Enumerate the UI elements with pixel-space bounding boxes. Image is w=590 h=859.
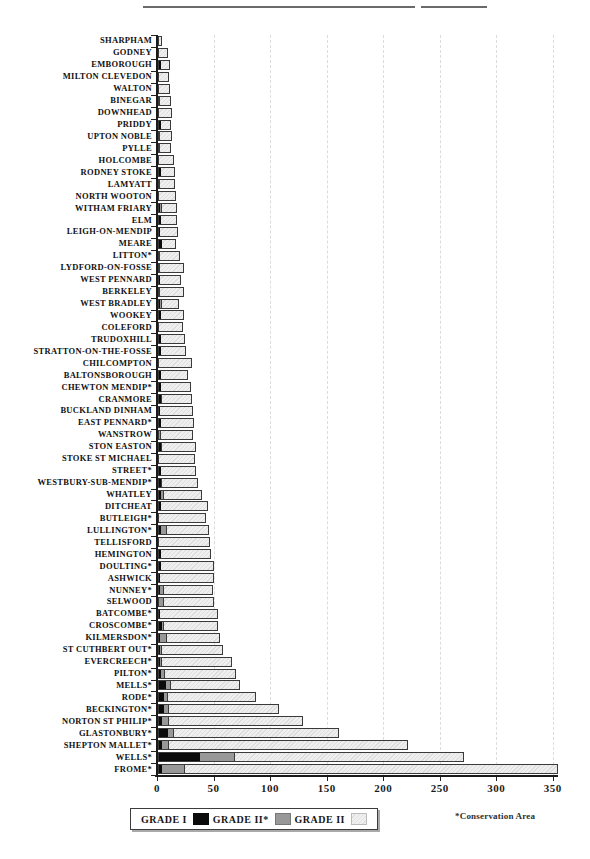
gridline: [496, 35, 497, 775]
scanned-chart-page: 050100150200250300350SHARPHAMGODNEYEMBOR…: [0, 0, 590, 859]
bar-row: [158, 597, 214, 607]
grade-2-segment: [159, 359, 191, 367]
bar-row: [158, 48, 168, 58]
x-axis-tick: [553, 777, 554, 781]
category-label: STRATTON-ON-THE-FOSSE: [2, 347, 152, 356]
grade-2-segment: [162, 395, 190, 403]
category-label: ELM: [2, 216, 152, 225]
category-label: WELLS*: [2, 753, 152, 762]
bar-row: [158, 191, 176, 201]
x-axis-tick: [327, 777, 328, 781]
grade-2-segment: [160, 407, 192, 415]
category-label: STREET*: [2, 466, 152, 475]
bar-row: [158, 120, 171, 130]
bar-row: [158, 764, 558, 774]
grade-2-segment: [161, 168, 173, 176]
grade-2-segment: [169, 741, 407, 749]
category-label: SELWOOD: [2, 597, 152, 606]
bar-row: [158, 501, 208, 511]
category-label: UPTON NOBLE: [2, 132, 152, 141]
bar-row: [158, 358, 192, 368]
bar-row: [158, 334, 185, 344]
x-tick-label: 100: [250, 782, 290, 794]
grade-2-star-segment: [200, 753, 235, 761]
x-axis-tick: [440, 777, 441, 781]
category-label: EAST PENNARD*: [2, 418, 152, 427]
category-label: EMBOROUGH: [2, 60, 152, 69]
bar-row: [158, 36, 162, 46]
bar-row: [158, 370, 188, 380]
grade-2-segment: [161, 383, 189, 391]
grade-2-segment: [159, 323, 182, 331]
page-header-rule: [421, 6, 487, 8]
grade-2-segment: [160, 132, 171, 140]
bar-row: [158, 645, 223, 655]
grade-2-segment: [160, 288, 183, 296]
category-label: DITCHEAT: [2, 502, 152, 511]
category-label: WALTON: [2, 84, 152, 93]
bar-row: [158, 454, 195, 464]
category-label: COLEFORD: [2, 323, 152, 332]
category-label: MEARE: [2, 239, 152, 248]
grade-1-segment: [159, 681, 166, 689]
bar-row: [158, 108, 172, 118]
grade-2-segment: [161, 371, 187, 379]
bar-row: [158, 490, 202, 500]
x-tick-label: 200: [363, 782, 403, 794]
category-label: PRIDDY: [2, 120, 152, 129]
x-tick-label: 150: [307, 782, 347, 794]
grade-2-segment: [171, 681, 239, 689]
category-label: MELLS*: [2, 681, 152, 690]
bar-row: [158, 549, 211, 559]
category-label: HEMINGTON: [2, 550, 152, 559]
grade-2-segment: [160, 574, 213, 582]
category-label: CRANMORE: [2, 395, 152, 404]
category-label: WEST BRADLEY: [2, 299, 152, 308]
bar-row: [158, 561, 214, 571]
bar-row: [158, 215, 177, 225]
conservation-area-footnote: *Conservation Area: [455, 811, 575, 821]
category-label: GLASTONBURY*: [2, 729, 152, 738]
bar-row: [158, 251, 180, 261]
bar-row: [158, 179, 175, 189]
grade-2-segment: [159, 73, 168, 81]
category-label: NORTON ST PHILIP*: [2, 717, 152, 726]
grade-2-segment: [185, 765, 557, 773]
grade-2-segment: [161, 216, 176, 224]
category-label: CHEWTON MENDIP*: [2, 383, 152, 392]
bar-row: [158, 418, 194, 428]
x-axis-tick: [214, 777, 215, 781]
legend-label: GRADE I: [141, 814, 187, 825]
category-label: WEST PENNARD: [2, 275, 152, 284]
category-label: LAMYATT: [2, 180, 152, 189]
grade-2-segment: [160, 610, 217, 618]
bar-row: [158, 227, 178, 237]
x-axis-tick: [496, 777, 497, 781]
grade-2-star-segment: [162, 717, 169, 725]
grade-2-star-swatch: [275, 813, 291, 825]
category-label: NUNNEY*: [2, 586, 152, 595]
legend-item-grade-2-star: GRADE II*: [213, 813, 291, 825]
bar-row: [158, 633, 220, 643]
bar-row: [158, 60, 170, 70]
grade-2-segment: [161, 467, 195, 475]
bar-row: [158, 203, 177, 213]
grade-2-segment: [160, 97, 170, 105]
grade-2-segment: [162, 479, 197, 487]
bar-row: [158, 239, 176, 249]
gridline: [383, 35, 384, 775]
category-label: WOOKEY: [2, 311, 152, 320]
bar-row: [158, 310, 184, 320]
bar-row: [158, 155, 174, 165]
grade-2-segment: [167, 634, 219, 642]
bar-row: [158, 394, 192, 404]
category-label: CHILCOMPTON: [2, 359, 152, 368]
bar-row: [158, 406, 193, 416]
grade-2-segment: [161, 562, 213, 570]
category-label: BUCKLAND DINHAM: [2, 406, 152, 415]
y-axis-tick: [151, 775, 156, 776]
x-axis-tick: [383, 777, 384, 781]
grade-2-segment: [161, 502, 206, 510]
category-label: DOWNHEAD: [2, 108, 152, 117]
category-label: MILTON CLEVEDON: [2, 72, 152, 81]
